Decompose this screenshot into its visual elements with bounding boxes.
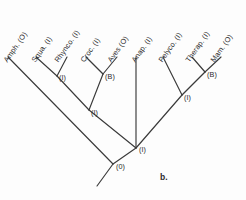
node-label-n-therap-mam: (B) — [207, 70, 217, 79]
node-label-n-synapsida: (I) — [184, 93, 191, 102]
node-label-n-croc-aves: (B) — [105, 72, 115, 81]
therap-mam-to-synap — [182, 72, 205, 95]
node-label-n-squa-rhynco: (I) — [59, 73, 66, 82]
figure-caption: b. — [160, 172, 168, 182]
croc-aves-to-sauria — [89, 74, 103, 110]
node-label-n-root: (0) — [116, 162, 125, 171]
pelyco-branch — [163, 57, 182, 95]
node-label-n-sauria: (I) — [91, 108, 98, 117]
synap-to-amniota — [136, 95, 182, 148]
root-tail — [97, 164, 113, 186]
node-label-n-amniota: (I) — [139, 145, 146, 154]
cladogram-figure: Amph. (O)Squa. (I)Rhynco. (I)Croc. (I)Av… — [0, 0, 246, 200]
